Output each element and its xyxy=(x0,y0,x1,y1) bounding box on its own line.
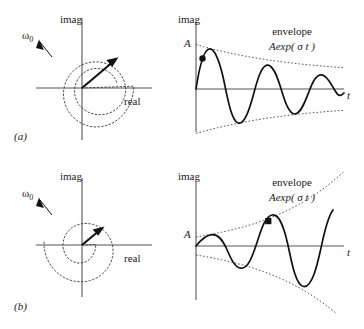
a-envelope-word: envelope xyxy=(246,26,338,37)
a-omega-rotation-arrow-shaft xyxy=(40,42,52,57)
b-growing-sine-curve xyxy=(196,210,333,287)
b-omega-subscript: 0 xyxy=(29,193,33,202)
a-phasor-imag-axis-label: imag xyxy=(60,14,82,25)
a-wave-imag-axis-label: imag xyxy=(178,14,200,25)
b-wave-time-axis-label: t xyxy=(347,247,350,258)
figure-complex-exponential: imag real ω0 imag A envelope Aexp( σ t )… xyxy=(0,0,364,329)
a-omega-subscript: 0 xyxy=(29,35,33,44)
panel-a-waveform-plot xyxy=(196,22,344,134)
a-lower-envelope xyxy=(196,110,344,133)
a-envelope-formula: Aexp( σ t ) xyxy=(246,41,338,52)
panel-a-caption: (a) xyxy=(14,131,27,142)
b-envelope-word: envelope xyxy=(246,177,338,188)
panel-a-phasor-plot xyxy=(36,18,152,140)
panel-b-phasor-plot xyxy=(36,178,152,297)
a-phasor-arrow-shaft xyxy=(82,61,114,88)
b-envelope-formula: Aexp( σ t ) xyxy=(246,192,338,203)
b-phase-marker-dot xyxy=(265,218,271,224)
b-phasor-imag-axis-label: imag xyxy=(60,171,82,182)
b-amplitude-label: A xyxy=(184,229,191,240)
b-wave-imag-axis-label: imag xyxy=(178,171,200,182)
a-phasor-real-axis-label: real xyxy=(124,96,140,107)
a-wave-time-axis-label: t xyxy=(347,90,350,101)
b-lower-envelope xyxy=(196,255,336,313)
b-growing-spiral xyxy=(44,224,113,282)
b-omega-naught-label: ω0 xyxy=(22,188,33,202)
a-amplitude-label: A xyxy=(184,38,191,49)
a-omega-naught-label: ω0 xyxy=(22,30,33,44)
a-phase-marker-dot xyxy=(199,55,205,61)
panel-b-caption: (b) xyxy=(14,301,27,312)
b-phasor-real-axis-label: real xyxy=(124,253,140,264)
b-omega-rotation-arrow-shaft xyxy=(40,200,52,215)
